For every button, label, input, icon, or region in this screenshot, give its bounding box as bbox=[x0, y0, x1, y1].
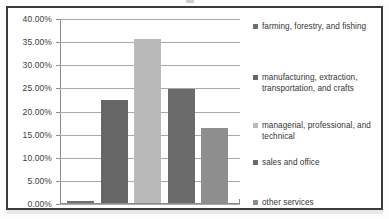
y-axis-tick-label: 5.00% bbox=[27, 177, 52, 186]
y-axis-tick-label: 25.00% bbox=[23, 84, 52, 93]
plot-area bbox=[60, 19, 240, 204]
bar-4 bbox=[168, 89, 195, 203]
y-axis-tick bbox=[56, 42, 60, 43]
y-axis-tick-labels: 0.00%5.00%10.00%15.00%20.00%25.00%30.00%… bbox=[8, 19, 58, 209]
y-axis-tick-label: 0.00% bbox=[27, 200, 52, 209]
y-axis-tick bbox=[56, 158, 60, 159]
legend-item-label: farming, forestry, and fishing bbox=[262, 22, 366, 33]
y-axis-tick bbox=[56, 181, 60, 182]
bar-3 bbox=[134, 39, 161, 203]
chart-canvas: 0.00%5.00%10.00%15.00%20.00%25.00%30.00%… bbox=[8, 8, 381, 208]
y-axis-tick bbox=[56, 88, 60, 89]
chart-legend: farming, forestry, and fishingmanufactur… bbox=[253, 18, 383, 210]
y-axis-tick bbox=[56, 65, 60, 66]
legend-item-label: sales and office bbox=[262, 158, 320, 169]
y-axis-tick-label: 40.00% bbox=[23, 15, 52, 24]
scan-bottom-shadow bbox=[6, 210, 383, 214]
legend-swatch-icon bbox=[253, 123, 258, 128]
legend-swatch-icon bbox=[253, 75, 258, 80]
y-axis-tick-label: 30.00% bbox=[23, 61, 52, 70]
legend-swatch-icon bbox=[253, 24, 258, 29]
bar-1 bbox=[67, 201, 94, 203]
y-axis-tick bbox=[56, 19, 60, 20]
legend-swatch-icon bbox=[253, 200, 258, 205]
y-axis-tick bbox=[56, 135, 60, 136]
y-axis-tick-label: 10.00% bbox=[23, 154, 52, 163]
bar-2 bbox=[101, 100, 128, 203]
legend-item-label: manufacturing, extraction, transportatio… bbox=[262, 73, 383, 94]
legend-item-5[interactable]: other services bbox=[253, 198, 383, 209]
scan-artifact-mark bbox=[186, 0, 194, 3]
legend-item-4[interactable]: sales and office bbox=[253, 158, 383, 169]
legend-item-1[interactable]: farming, forestry, and fishing bbox=[253, 22, 383, 33]
legend-swatch-icon bbox=[253, 160, 258, 165]
legend-item-3[interactable]: managerial, professional, and technical bbox=[253, 121, 383, 142]
gridline bbox=[60, 19, 240, 20]
gridline bbox=[60, 204, 240, 205]
bar-5 bbox=[201, 128, 228, 203]
legend-item-label: managerial, professional, and technical bbox=[262, 121, 383, 142]
y-axis-tick-label: 35.00% bbox=[23, 38, 52, 47]
legend-item-2[interactable]: manufacturing, extraction, transportatio… bbox=[253, 73, 383, 94]
y-axis-tick-label: 20.00% bbox=[23, 108, 52, 117]
y-axis-tick-label: 15.00% bbox=[23, 131, 52, 140]
chart-screenshot: 0.00%5.00%10.00%15.00%20.00%25.00%30.00%… bbox=[0, 0, 389, 219]
legend-item-label: other services bbox=[262, 198, 314, 209]
y-axis-tick bbox=[56, 112, 60, 113]
chart-frame-border: 0.00%5.00%10.00%15.00%20.00%25.00%30.00%… bbox=[6, 6, 383, 210]
y-axis-tick bbox=[56, 204, 60, 205]
